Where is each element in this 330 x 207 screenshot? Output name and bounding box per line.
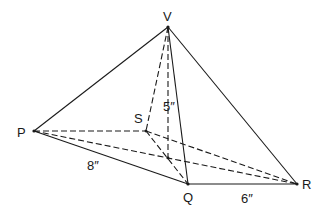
vertex-label-r: R [302, 178, 311, 191]
vertex-label-s: S [134, 112, 143, 125]
vertex-label-q: Q [183, 191, 193, 204]
height-measurement: 5″ [163, 100, 175, 113]
side-qr-measurement: 6″ [241, 192, 253, 205]
side-pq-measurement: 8″ [87, 159, 99, 172]
vertex-label-v: V [163, 10, 172, 23]
edge-vs-hidden [146, 27, 168, 131]
vertex-label-p: P [17, 126, 26, 139]
edge-pq [34, 131, 188, 184]
edge-vp [34, 27, 168, 131]
edge-vr [168, 27, 297, 184]
